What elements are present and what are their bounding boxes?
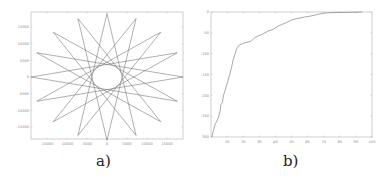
caption-a: a) — [96, 152, 111, 170]
y-tick-label: -5000 — [19, 92, 30, 96]
x-tick-label: 5000 — [122, 142, 132, 146]
convergence-curve-line — [212, 12, 363, 137]
x-tick-label: 70 — [321, 140, 326, 144]
y-tick-label: -300 — [201, 135, 210, 139]
y-tick-label: -250 — [201, 114, 210, 118]
y-tick-label: 0 — [207, 10, 210, 14]
x-tick-label: 100 — [369, 140, 377, 144]
y-tick-label: 15000 — [18, 25, 30, 29]
plot-b-tick-labels: 1020304050607080901000-50-100-150-200-25… — [201, 10, 376, 144]
figure-canvas: -15000-10000-500005000100001500015000100… — [0, 0, 385, 180]
y-tick-label: 0 — [27, 75, 30, 79]
y-tick-label: -200 — [201, 94, 210, 98]
x-tick-label: 80 — [338, 140, 343, 144]
x-tick-label: 10 — [225, 140, 230, 144]
x-tick-label: 40 — [273, 140, 278, 144]
plot-b: 1020304050607080901000-50-100-150-200-25… — [201, 10, 376, 144]
plot-a: -15000-10000-500005000100001500015000100… — [16, 12, 183, 146]
x-tick-label: 10000 — [141, 142, 153, 146]
y-tick-label: 5000 — [20, 59, 30, 63]
x-tick-label: 20 — [241, 140, 246, 144]
star-polygon-line — [31, 14, 183, 141]
y-tick-label: -150 — [201, 73, 210, 77]
x-tick-label: 90 — [354, 140, 359, 144]
x-tick-label: 50 — [289, 140, 294, 144]
plot-a-tick-labels: -15000-10000-500005000100001500015000100… — [16, 25, 173, 146]
y-tick-label: 10000 — [18, 42, 30, 46]
x-tick-label: 15000 — [161, 142, 173, 146]
plot-b-ticks — [211, 12, 372, 137]
x-tick-label: -15000 — [41, 142, 54, 146]
x-tick-label: -10000 — [61, 142, 74, 146]
y-tick-label: -15000 — [16, 125, 29, 129]
x-tick-label: 30 — [257, 140, 262, 144]
plot-a-ticks — [31, 12, 183, 139]
x-tick-label: 0 — [106, 142, 109, 146]
y-tick-label: -10000 — [16, 109, 29, 113]
x-tick-label: 60 — [305, 140, 310, 144]
y-tick-label: -50 — [203, 31, 210, 35]
y-tick-label: -100 — [201, 52, 210, 56]
caption-b: b) — [283, 152, 298, 170]
x-tick-label: -5000 — [82, 142, 93, 146]
plot-a-frame — [31, 12, 183, 139]
plot-b-frame — [211, 12, 372, 137]
